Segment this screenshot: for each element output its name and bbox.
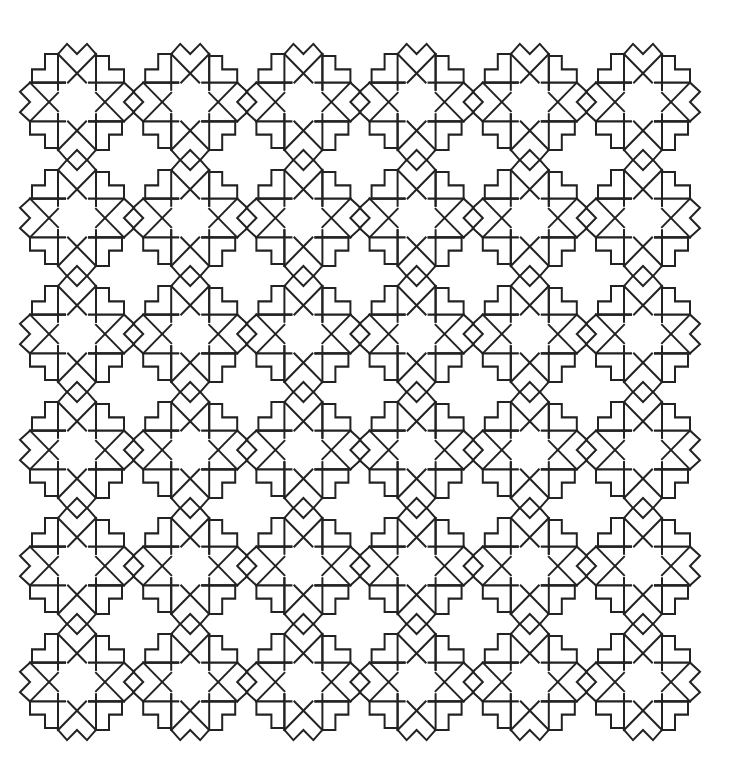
- star-rosette-tile: [133, 624, 247, 740]
- star-rosette-tile: [473, 160, 587, 276]
- star-rosette-tile: [360, 44, 474, 160]
- star-rosette-tile: [586, 44, 700, 160]
- star-rosette-tile: [586, 160, 700, 276]
- star-rosette-tile: [473, 276, 587, 392]
- star-rosette-tile: [246, 624, 360, 740]
- tile-grid: [20, 44, 700, 740]
- star-rosette-tile: [360, 276, 474, 392]
- star-rosette-tile: [20, 160, 134, 276]
- star-rosette-tile: [246, 44, 360, 160]
- star-rosette-tile: [360, 508, 474, 624]
- star-rosette-tile: [586, 624, 700, 740]
- star-rosette-tile: [246, 276, 360, 392]
- star-rosette-tile: [20, 392, 134, 508]
- star-rosette-tile: [586, 508, 700, 624]
- star-rosette-tile: [473, 624, 587, 740]
- star-rosette-tile: [586, 392, 700, 508]
- star-rosette-tile: [360, 160, 474, 276]
- star-rosette-tile: [133, 276, 247, 392]
- star-rosette-tile: [360, 392, 474, 508]
- star-rosette-tile: [20, 508, 134, 624]
- star-rosette-tile: [246, 160, 360, 276]
- star-rosette-tile: [360, 624, 474, 740]
- star-rosette-tile: [20, 276, 134, 392]
- star-rosette-tile: [20, 44, 134, 160]
- star-rosette-tile: [246, 508, 360, 624]
- star-rosette-tile: [246, 392, 360, 508]
- star-rosette-tile: [133, 160, 247, 276]
- star-rosette-tile: [133, 392, 247, 508]
- star-rosette-tile: [133, 44, 247, 160]
- star-rosette-tile: [473, 508, 587, 624]
- star-rosette-tile: [133, 508, 247, 624]
- star-rosette-tile: [20, 624, 134, 740]
- star-rosette-tile: [473, 392, 587, 508]
- geometric-tile-pattern: [0, 0, 751, 782]
- star-rosette-tile: [586, 276, 700, 392]
- star-rosette-tile: [473, 44, 587, 160]
